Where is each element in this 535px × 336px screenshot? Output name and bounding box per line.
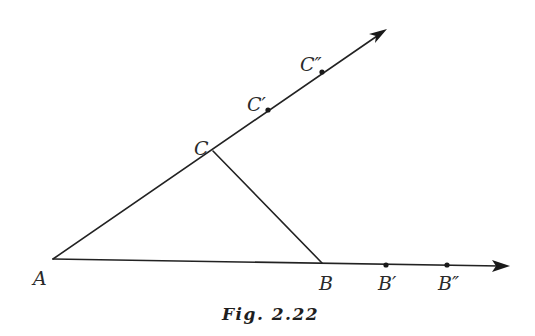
label-b: B bbox=[318, 272, 333, 294]
label-c-double-prime: C″ bbox=[300, 53, 322, 75]
label-b-prime: B′ bbox=[377, 272, 397, 294]
label-c: C bbox=[194, 137, 209, 159]
point-b-double-prime bbox=[444, 262, 449, 267]
label-a: A bbox=[31, 267, 47, 289]
arrowhead-ac-icon bbox=[369, 29, 387, 43]
ray-ac bbox=[53, 34, 380, 259]
point-b-prime bbox=[383, 262, 388, 267]
geometry-figure: A B B′ B″ C C′ C″ Fig. 2.22 bbox=[0, 0, 535, 336]
label-b-double-prime: B″ bbox=[437, 272, 459, 294]
figure-caption: Fig. 2.22 bbox=[221, 304, 319, 324]
label-c-prime: C′ bbox=[247, 93, 267, 115]
ray-ab bbox=[53, 259, 500, 266]
point-c-prime bbox=[265, 107, 270, 112]
segment-cb bbox=[213, 151, 322, 263]
